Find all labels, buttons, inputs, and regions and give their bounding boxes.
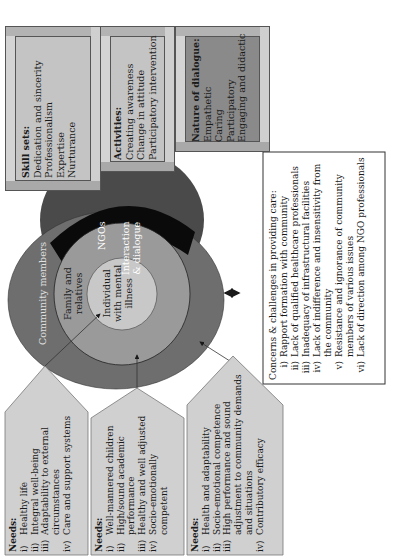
item-number: iv) (255, 535, 266, 552)
item-number: iii) (301, 357, 312, 380)
text-line: Concerns & challenges in providing care: (268, 155, 279, 380)
list-item: v)Resistance and ignorance of community (334, 155, 345, 380)
list-item: iii)Inadequacy of infrastructural facili… (301, 155, 312, 380)
text-line: relatives (73, 267, 84, 320)
text-line: Professionalism (43, 28, 55, 178)
text-line: Family and (62, 267, 73, 320)
text-line: performance (126, 476, 137, 535)
list-item: the community (323, 155, 334, 380)
text-line: Engaging and didactic (236, 32, 248, 142)
text-line: Individual (101, 265, 112, 322)
text-line: Socio-emotionally (148, 454, 159, 535)
item-number: iv) (62, 535, 73, 552)
item-number: ii) (290, 357, 301, 380)
text-line: Care and support systems (62, 416, 73, 535)
list-item: iv)Contributory efficacy (255, 402, 266, 552)
text-line: Contributory efficacy (255, 438, 266, 535)
text-line: Integral well-being (30, 448, 41, 535)
ngo-label: NGOs (96, 221, 107, 250)
list-item: i)Healthy life (19, 412, 30, 552)
text-line: illness (123, 265, 134, 322)
list-item: ii)Integral well-being (30, 412, 41, 552)
list-item: adjustment to community demands (233, 402, 244, 552)
item-number (51, 535, 62, 552)
text-line: Change in attitude (135, 30, 147, 160)
item-number: iii) (137, 535, 148, 552)
text-line: circumstances (51, 469, 62, 535)
needs-box-2-text: Needs: i)Well-mannered children ii)High/… (94, 422, 170, 552)
list-item: iii)Adaptability to external (40, 412, 51, 552)
list-item: vi)Lack of direction among NGO professio… (356, 155, 367, 380)
text-line: Community members (37, 242, 48, 345)
text-line: Adaptability to external (40, 427, 51, 535)
text-line: the community (323, 289, 334, 357)
list-item: i)Rapport formation with community (279, 155, 290, 380)
list-item: iii)Healthy and well adjusted (137, 422, 148, 552)
text-line: Dedication and sincerity (32, 28, 44, 178)
list-item: iv)Lack of indifference and insensitivit… (312, 155, 323, 380)
item-number (323, 357, 334, 380)
text-line: High performance and sound (222, 401, 233, 535)
individual-label: Individual with mental illness (101, 265, 134, 322)
text-line: Participatory (225, 32, 237, 142)
nature-of-dialogue-text: Nature of dialogue: Empathetic Caring Pa… (190, 32, 248, 142)
item-number: v) (334, 357, 345, 380)
item-number: iii) (222, 535, 233, 552)
text-line: Healthy life (19, 482, 30, 535)
list-item: circumstances (51, 412, 62, 552)
text-line: Well-mannered children (105, 426, 116, 536)
text-line: and situations (244, 471, 255, 535)
list-item: iv)Care and support systems (62, 412, 73, 552)
text-line: Expertise (55, 28, 67, 178)
text-line: Caring (213, 32, 225, 142)
text-line: Socio-emotional competence (212, 404, 223, 535)
list-item: ii)High/sound academic (116, 422, 127, 552)
list-item: ii)Lack of qualified healthcare professi… (290, 155, 301, 380)
skill-sets-text: Skill sets: Dedication and sincerity Pro… (20, 28, 78, 178)
text-line: adjustment to community demands (233, 374, 244, 535)
text-line: Skill sets: (20, 28, 32, 178)
text-line: Nurturance (66, 28, 78, 178)
item-number (244, 535, 255, 552)
item-number: ii) (116, 535, 127, 552)
text-line: Inadequacy of infrastructural facilities (301, 181, 312, 357)
list-item: and situations (244, 402, 255, 552)
text-line: Needs: (94, 422, 105, 552)
text-line: Lack of qualified healthcare professiona… (290, 166, 301, 357)
text-line: NGOs (96, 221, 107, 250)
activities-text: Activities: Creating awareness Change in… (112, 30, 158, 160)
arrow-needs-3 (200, 342, 233, 363)
needs-box-3-text: Needs: i)Health and adaptability ii)Soci… (190, 402, 266, 552)
text-line: with mental (112, 265, 123, 322)
text-line: competent (159, 487, 170, 535)
community-label: Community members (37, 242, 48, 345)
concerns-box-text: Concerns & challenges in providing care:… (268, 155, 367, 380)
text-line: Activities: (112, 30, 124, 160)
list-item: ii)Socio-emotional competence (212, 402, 223, 552)
text-line: Empathetic (202, 32, 214, 142)
list-item: performance (126, 422, 137, 552)
diagram-canvas: NGOs Interaction & dialogue Community me… (0, 0, 396, 557)
text-line: Health and adaptability (201, 427, 212, 535)
text-line: Creating awareness (124, 30, 136, 160)
item-number: i) (279, 357, 290, 380)
text-line: High/sound academic (116, 436, 127, 535)
item-number: iii) (40, 535, 51, 552)
list-item: members of various issues (345, 155, 356, 380)
list-item: i)Well-mannered children (105, 422, 116, 552)
item-number (159, 535, 170, 552)
text-line: Rapport formation with community (279, 196, 290, 357)
text-line: Lack of direction among NGO professional… (356, 157, 367, 357)
text-line: Lack of indifference and insensitivity f… (312, 164, 323, 357)
item-number (126, 535, 137, 552)
item-number: i) (19, 535, 30, 552)
item-number: ii) (212, 535, 223, 552)
text-line: Needs: (190, 402, 201, 552)
text-line: members of various issues (345, 236, 356, 357)
item-number (345, 357, 356, 380)
item-number: iv) (148, 535, 159, 552)
text-line: Nature of dialogue: (190, 32, 202, 142)
item-number (233, 535, 244, 552)
needs-box-1-text: Needs: i)Healthy life ii)Integral well-b… (8, 412, 73, 552)
item-number: i) (201, 535, 212, 552)
